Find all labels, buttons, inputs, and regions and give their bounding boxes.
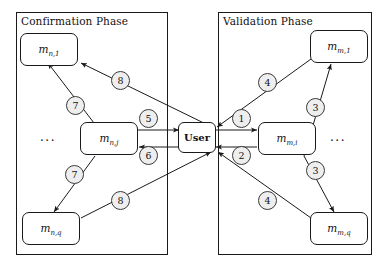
node-label-m-n-q: mn,q (40, 223, 61, 234)
step-badge-3-bottom: 3 (306, 161, 325, 180)
step-badge-1: 1 (232, 109, 251, 128)
step-badge-8-bottom: 8 (111, 191, 130, 210)
node-label-m-n-j: mn,j (100, 133, 119, 144)
step-badge-6: 6 (139, 146, 158, 165)
diagram-canvas: Confirmation Phase Validation Phase ... … (0, 0, 387, 272)
phase-title-validation: Validation Phase (223, 15, 313, 27)
node-m-n-q[interactable]: mn,q (22, 212, 80, 245)
ellipsis-validation: ... (330, 131, 346, 143)
node-label-m-m-q: mm,q (327, 223, 350, 234)
node-m-n-1[interactable]: mn,1 (20, 33, 78, 66)
node-m-m-q[interactable]: mm,q (310, 212, 368, 245)
step-badge-2: 2 (232, 146, 251, 165)
node-label-m-n-1: mn,1 (38, 44, 59, 55)
node-label-m-m-i: mm,i (276, 133, 297, 144)
node-m-m-1[interactable]: mm,1 (310, 30, 368, 63)
node-label-m-m-1: mm,1 (327, 41, 350, 52)
step-badge-3-top: 3 (306, 98, 325, 117)
phase-title-confirmation: Confirmation Phase (21, 15, 128, 27)
node-user[interactable]: User (178, 122, 216, 153)
ellipsis-confirmation: ... (40, 131, 56, 143)
node-label-user: User (184, 132, 210, 143)
step-badge-4-top: 4 (258, 73, 277, 92)
step-badge-7-bottom: 7 (65, 165, 84, 184)
step-badge-4-bottom: 4 (258, 191, 277, 210)
node-m-m-i[interactable]: mm,i (258, 122, 316, 155)
step-badge-5: 5 (139, 109, 158, 128)
step-badge-8-top: 8 (111, 71, 130, 90)
node-m-n-j[interactable]: mn,j (80, 122, 138, 155)
step-badge-7-top: 7 (66, 96, 85, 115)
